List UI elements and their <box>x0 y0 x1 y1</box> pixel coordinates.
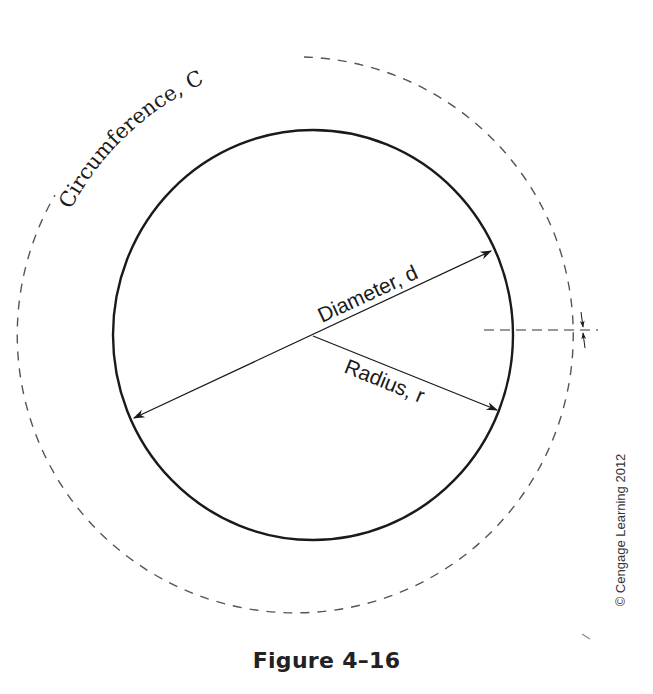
copyright-notice: © Cengage Learning 2012 <box>613 454 628 607</box>
diameter-label: Diameter, d <box>314 260 421 326</box>
circle-diagram: Circumference, C Diameter, d Radius, r <box>0 0 653 694</box>
circumference-label: Circumference, C <box>54 66 207 213</box>
radius-label: Radius, r <box>342 354 429 407</box>
seam-arrow-top <box>581 312 583 327</box>
seam-arrow-bottom <box>583 333 585 348</box>
figure-caption: Figure 4–16 <box>0 648 653 673</box>
diameter-line <box>134 251 491 418</box>
main-circle <box>113 130 513 540</box>
stray-mark <box>582 634 590 639</box>
